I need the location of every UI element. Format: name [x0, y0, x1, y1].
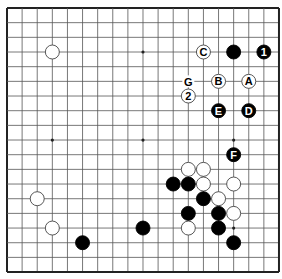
white-stone-2[interactable]: 2: [181, 89, 195, 103]
white-stone-icon: [196, 162, 210, 176]
black-stone-icon: [181, 206, 195, 220]
stone-label: B: [215, 75, 223, 87]
white-stone-icon: [227, 206, 241, 220]
black-stone-icon: [212, 206, 226, 220]
white-stone-icon: [227, 177, 241, 191]
white-stone-icon: [181, 162, 195, 176]
star-point-icon: [141, 50, 144, 53]
white-stone-icon: [181, 221, 195, 235]
white-stone[interactable]: [30, 192, 44, 206]
stone-label: D: [245, 105, 253, 117]
star-point-icon: [51, 138, 54, 141]
point-label[interactable]: G: [184, 76, 193, 88]
black-stone[interactable]: [212, 206, 226, 220]
white-stone[interactable]: [181, 162, 195, 176]
black-stone-icon: [196, 192, 210, 206]
black-stone-icon: [181, 177, 195, 191]
white-stone[interactable]: [45, 221, 59, 235]
white-stone[interactable]: [181, 221, 195, 235]
black-stone-icon: [212, 221, 226, 235]
black-stone[interactable]: [227, 45, 241, 59]
black-stone-1[interactable]: 1: [257, 45, 271, 59]
white-stone-icon: [30, 192, 44, 206]
white-stone-icon: [196, 177, 210, 191]
black-stone-E[interactable]: E: [212, 104, 226, 118]
stone-label: F: [230, 149, 237, 161]
stone-label: 1: [261, 46, 267, 58]
white-stone-B[interactable]: B: [212, 74, 226, 88]
black-stone-icon: [136, 221, 150, 235]
white-stone-icon: [45, 221, 59, 235]
black-stone[interactable]: [166, 177, 180, 191]
stone-label: A: [245, 75, 253, 87]
white-stone-A[interactable]: A: [242, 74, 256, 88]
white-stone[interactable]: [196, 162, 210, 176]
white-stone[interactable]: [45, 45, 59, 59]
black-stone-icon: [227, 45, 241, 59]
black-stone[interactable]: [181, 177, 195, 191]
black-stone[interactable]: [181, 206, 195, 220]
stone-label: 2: [185, 90, 191, 102]
black-stone-icon: [76, 236, 90, 250]
go-board[interactable]: C1BA2EDF G: [0, 0, 282, 279]
white-stone[interactable]: [212, 192, 226, 206]
star-point-icon: [232, 226, 235, 229]
black-stone[interactable]: [212, 221, 226, 235]
star-point-icon: [141, 138, 144, 141]
stone-label: E: [215, 105, 222, 117]
star-point-icon: [232, 138, 235, 141]
white-stone-icon: [212, 192, 226, 206]
board-background: [0, 0, 282, 279]
black-stone-icon: [227, 236, 241, 250]
white-stone-icon: [45, 45, 59, 59]
white-stone[interactable]: [227, 177, 241, 191]
black-stone-icon: [166, 177, 180, 191]
white-stone[interactable]: [196, 177, 210, 191]
stone-label: C: [199, 46, 207, 58]
black-stone[interactable]: [136, 221, 150, 235]
black-stone[interactable]: [76, 236, 90, 250]
empty-point-labels: G: [182, 75, 194, 88]
black-stone-D[interactable]: D: [242, 104, 256, 118]
black-stone[interactable]: [196, 192, 210, 206]
white-stone-C[interactable]: C: [196, 45, 210, 59]
black-stone[interactable]: [227, 236, 241, 250]
white-stone[interactable]: [227, 206, 241, 220]
black-stone-F[interactable]: F: [227, 148, 241, 162]
